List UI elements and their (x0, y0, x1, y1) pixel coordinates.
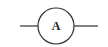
ammeter-symbol: A (0, 0, 108, 47)
ammeter-label: A (52, 19, 61, 33)
